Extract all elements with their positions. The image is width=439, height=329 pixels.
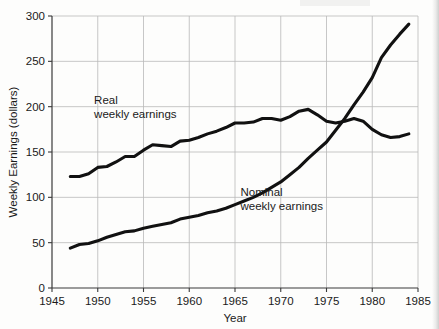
real-weekly-earnings-label-line: weekly earnings: [93, 108, 177, 120]
y-axis-tick-labels: 050100150200250300: [26, 10, 45, 294]
x-tick-label: 1965: [222, 295, 248, 307]
x-tick-label: 1955: [131, 295, 157, 307]
y-axis-title: Weekly Earnings (dollars): [7, 86, 19, 217]
y-tick-label: 150: [26, 146, 45, 158]
nominal-weekly-earnings-label-line: Nominal: [240, 186, 282, 198]
x-tick-label: 1970: [268, 295, 294, 307]
real-weekly-earnings-label-line: Real: [94, 94, 118, 106]
series-line-nominal-weekly-earnings: [70, 24, 409, 248]
nominal-weekly-earnings-label-line: weekly earnings: [239, 200, 323, 212]
x-tick-label: 1985: [405, 295, 431, 307]
figure-container: 050100150200250300 194519501955196019651…: [0, 0, 439, 329]
x-axis-title: Year: [223, 312, 246, 324]
x-tick-label: 1950: [85, 295, 111, 307]
y-tick-label: 250: [26, 55, 45, 67]
x-tick-label: 1980: [359, 295, 385, 307]
x-tick-label: 1945: [39, 295, 65, 307]
data-series-group: [70, 24, 409, 248]
x-tick-label: 1975: [314, 295, 340, 307]
y-tick-label: 0: [39, 282, 45, 294]
weekly-earnings-line-chart: 050100150200250300 194519501955196019651…: [0, 0, 439, 329]
y-tick-label: 300: [26, 10, 45, 22]
y-tick-label: 200: [26, 101, 45, 113]
y-tick-label: 50: [32, 237, 45, 249]
series-annotations: Realweekly earningsNominalweekly earning…: [93, 94, 323, 212]
x-axis-tick-labels: 194519501955196019651970197519801985: [39, 295, 431, 307]
x-tick-label: 1960: [176, 295, 202, 307]
y-tick-label: 100: [26, 191, 45, 203]
